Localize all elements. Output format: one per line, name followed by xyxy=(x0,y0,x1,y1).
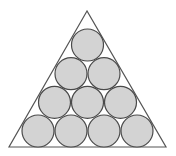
circle-group xyxy=(22,29,153,147)
diagram-canvas xyxy=(0,0,176,156)
circle-row4-1 xyxy=(22,115,54,147)
circle-row3-3 xyxy=(105,86,137,118)
circle-row2-1 xyxy=(55,58,87,90)
circle-row4-3 xyxy=(88,115,120,147)
circle-row3-2 xyxy=(72,86,104,118)
circle-row2-2 xyxy=(88,58,120,90)
circle-row4-4 xyxy=(121,115,153,147)
circle-row4-2 xyxy=(55,115,87,147)
circle-row1-1 xyxy=(72,29,104,61)
circle-row3-1 xyxy=(39,86,71,118)
circle-packing-diagram xyxy=(0,0,176,156)
